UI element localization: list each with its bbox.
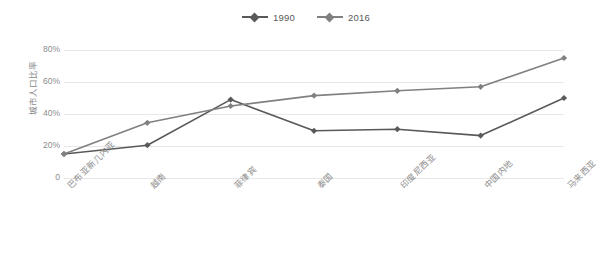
data-point-marker[interactable] bbox=[561, 95, 567, 101]
y-axis-title: 城市人口比率 bbox=[26, 48, 38, 128]
data-point-marker[interactable] bbox=[228, 103, 234, 109]
y-axis-tick: 20% bbox=[43, 140, 60, 150]
y-axis-tick: 60% bbox=[43, 76, 60, 86]
series-line-2016 bbox=[64, 58, 564, 154]
data-point-marker[interactable] bbox=[144, 142, 150, 148]
chart-legend: 1990 2016 bbox=[0, 8, 612, 26]
data-point-marker[interactable] bbox=[311, 128, 317, 134]
data-point-marker[interactable] bbox=[478, 133, 484, 139]
y-axis-tick: 0 bbox=[55, 172, 60, 182]
legend-marker-2016-icon bbox=[317, 12, 343, 22]
series-lines bbox=[64, 42, 564, 178]
y-axis-tick: 80% bbox=[43, 44, 60, 54]
y-axis-tick: 40% bbox=[43, 108, 60, 118]
data-point-marker[interactable] bbox=[61, 151, 67, 157]
x-axis-tick-labels: 巴布亚新几内亚越南菲律宾泰国印度尼西亚中国内地马来西亚 bbox=[64, 182, 564, 256]
data-point-marker[interactable] bbox=[144, 120, 150, 126]
line-chart: 1990 2016 城市人口比率 020%40%60%80% 巴布亚新几内亚越南… bbox=[0, 0, 612, 256]
data-point-marker[interactable] bbox=[478, 84, 484, 90]
data-point-marker[interactable] bbox=[561, 55, 567, 61]
x-axis-tick: 马来西亚 bbox=[564, 157, 598, 191]
data-point-marker[interactable] bbox=[311, 93, 317, 99]
plot-area bbox=[64, 42, 564, 178]
legend-label-2016: 2016 bbox=[348, 12, 370, 23]
legend-entry-1990[interactable]: 1990 bbox=[242, 12, 295, 23]
legend-marker-1990-icon bbox=[242, 12, 268, 22]
data-point-marker[interactable] bbox=[394, 88, 400, 94]
legend-entry-2016[interactable]: 2016 bbox=[317, 12, 370, 23]
legend-label-1990: 1990 bbox=[273, 12, 295, 23]
data-point-marker[interactable] bbox=[394, 126, 400, 132]
data-point-marker[interactable] bbox=[228, 97, 234, 103]
